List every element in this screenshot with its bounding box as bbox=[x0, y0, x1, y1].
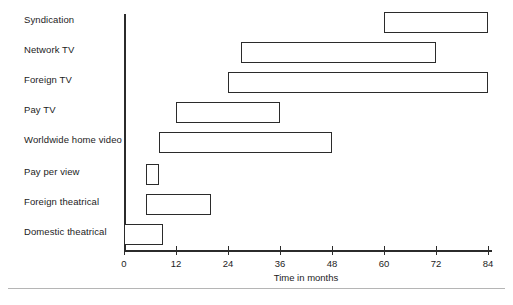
x-tick-72 bbox=[436, 246, 437, 255]
x-tick-label-36: 36 bbox=[265, 258, 295, 269]
range-bar-chart: Syndication Network TV Foreign TV Pay TV… bbox=[0, 0, 513, 305]
category-label-domestic-theatrical: Domestic theatrical bbox=[24, 226, 107, 237]
x-tick-24 bbox=[228, 246, 229, 255]
category-label-foreign-theatrical: Foreign theatrical bbox=[24, 196, 99, 207]
bar-foreign-theatrical bbox=[146, 194, 211, 215]
bar-foreign-tv bbox=[228, 72, 488, 93]
x-tick-label-0: 0 bbox=[109, 258, 139, 269]
footer-divider bbox=[8, 288, 505, 289]
bar-network-tv bbox=[241, 42, 436, 63]
category-label-foreign-tv: Foreign TV bbox=[24, 74, 72, 85]
x-tick-label-24: 24 bbox=[213, 258, 243, 269]
bar-domestic-theatrical bbox=[124, 224, 163, 245]
bar-pay-per-view bbox=[146, 164, 159, 185]
bar-syndication bbox=[384, 12, 488, 33]
x-tick-label-84: 84 bbox=[473, 258, 503, 269]
category-label-pay-per-view: Pay per view bbox=[24, 166, 80, 177]
x-tick-label-72: 72 bbox=[421, 258, 451, 269]
category-label-worldwide-home-video: Worldwide home video bbox=[24, 134, 122, 145]
x-tick-48 bbox=[332, 246, 333, 255]
bar-pay-tv bbox=[176, 102, 280, 123]
x-tick-12 bbox=[176, 246, 177, 255]
x-tick-84 bbox=[488, 246, 489, 255]
category-label-syndication: Syndication bbox=[24, 14, 74, 25]
x-axis-title: Time in months bbox=[246, 272, 366, 283]
x-tick-0 bbox=[124, 246, 125, 255]
y-axis-line bbox=[124, 14, 126, 250]
category-label-pay-tv: Pay TV bbox=[24, 104, 56, 115]
x-tick-60 bbox=[384, 246, 385, 255]
category-label-network-tv: Network TV bbox=[24, 44, 74, 55]
x-tick-label-12: 12 bbox=[161, 258, 191, 269]
x-tick-36 bbox=[280, 246, 281, 255]
bar-worldwide-home-video bbox=[159, 132, 332, 153]
x-tick-label-60: 60 bbox=[369, 258, 399, 269]
x-tick-label-48: 48 bbox=[317, 258, 347, 269]
